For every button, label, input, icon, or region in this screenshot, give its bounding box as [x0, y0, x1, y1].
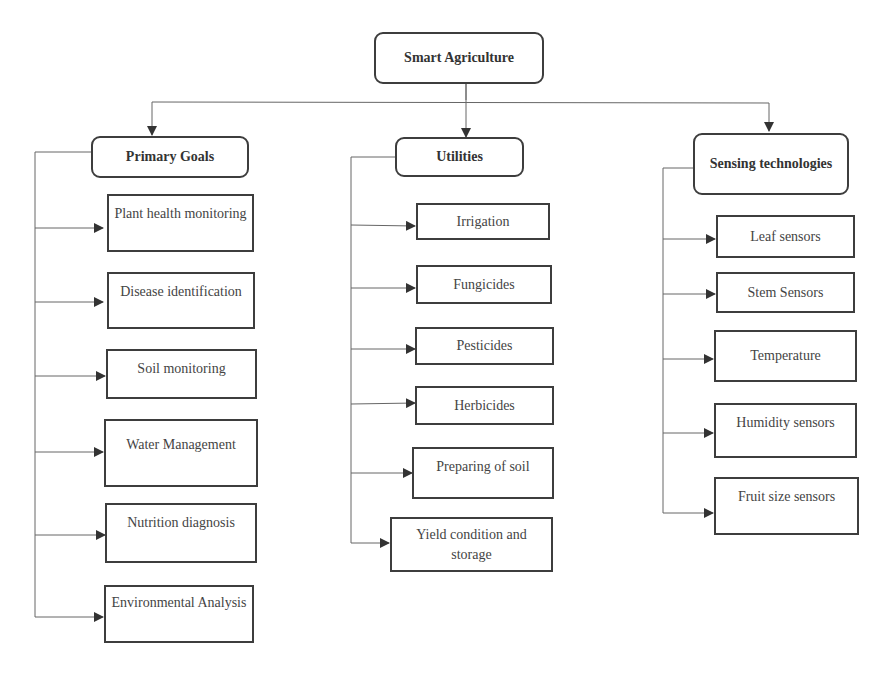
item-plant-health-monitoring: Plant health monitoring	[107, 194, 254, 252]
root-node: Smart Agriculture	[374, 32, 544, 84]
item-yield-condition-and-storage: Yield condition and storage	[390, 517, 553, 572]
item-label: Humidity sensors	[736, 413, 834, 433]
category-label: Primary Goals	[126, 147, 214, 167]
item-disease-identification: Disease identification	[107, 272, 255, 329]
item-label: Fruit size sensors	[738, 487, 835, 507]
item-label: Leaf sensors	[750, 227, 820, 247]
item-label: Nutrition diagnosis	[127, 513, 235, 533]
category-primary-goals: Primary Goals	[91, 136, 249, 178]
item-soil-monitoring: Soil monitoring	[106, 349, 257, 399]
item-label: Temperature	[750, 346, 821, 366]
item-fungicides: Fungicides	[416, 265, 552, 304]
item-humidity-sensors: Humidity sensors	[714, 403, 857, 458]
item-label: Yield condition and storage	[407, 525, 537, 565]
item-pesticides: Pesticides	[415, 327, 554, 365]
item-herbicides: Herbicides	[415, 386, 554, 425]
item-label: Disease identification	[120, 282, 242, 302]
item-leaf-sensors: Leaf sensors	[716, 215, 855, 258]
category-label: Sensing technologies	[710, 154, 833, 174]
item-irrigation: Irrigation	[416, 203, 550, 240]
item-environmental-analysis: Environmental Analysis	[104, 585, 254, 643]
item-label: Environmental Analysis	[112, 593, 247, 613]
item-water-management: Water Management	[104, 419, 258, 487]
category-label: Utilities	[436, 147, 483, 167]
item-label: Irrigation	[457, 212, 510, 232]
category-utilities: Utilities	[395, 137, 524, 177]
item-label: Preparing of soil	[436, 457, 529, 477]
item-stem-sensors: Stem Sensors	[716, 272, 855, 313]
item-label: Pesticides	[457, 336, 513, 356]
item-preparing-of-soil: Preparing of soil	[412, 447, 554, 499]
item-label: Fungicides	[453, 275, 514, 295]
item-label: Water Management	[126, 435, 236, 455]
item-label: Herbicides	[454, 396, 515, 416]
category-sensing-technologies: Sensing technologies	[693, 133, 849, 195]
item-label: Stem Sensors	[748, 283, 824, 303]
item-temperature: Temperature	[714, 330, 857, 382]
item-label: Soil monitoring	[137, 359, 225, 379]
item-nutrition-diagnosis: Nutrition diagnosis	[105, 503, 257, 563]
item-fruit-size-sensors: Fruit size sensors	[714, 477, 859, 535]
root-label: Smart Agriculture	[404, 48, 514, 68]
item-label: Plant health monitoring	[114, 204, 246, 224]
